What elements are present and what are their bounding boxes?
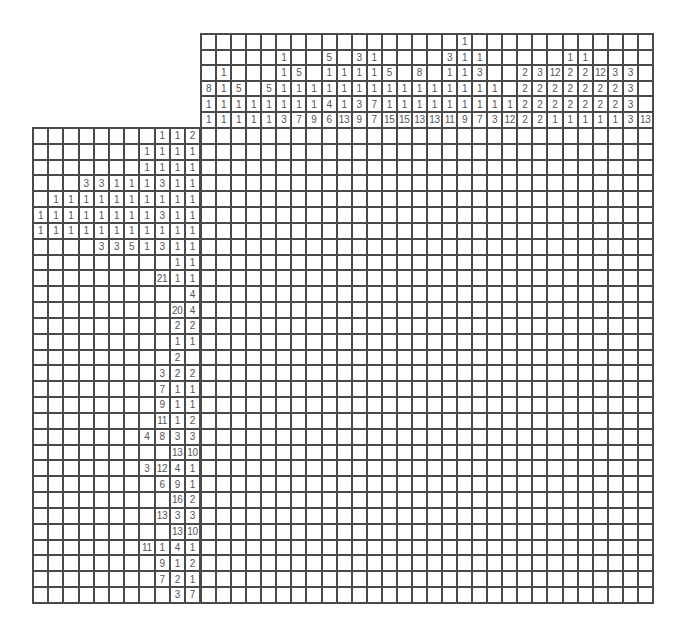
grid-cell[interactable] [638,191,653,207]
grid-cell[interactable] [532,191,547,207]
grid-cell[interactable] [367,492,382,508]
grid-cell[interactable] [427,460,442,476]
grid-cell[interactable] [397,255,412,271]
grid-cell[interactable] [472,175,487,191]
grid-cell[interactable] [517,175,532,191]
grid-cell[interactable] [276,175,291,191]
grid-cell[interactable] [291,555,306,571]
grid-cell[interactable] [532,318,547,334]
grid-cell[interactable] [578,223,593,239]
grid-cell[interactable] [337,144,352,160]
grid-cell[interactable] [261,540,276,556]
grid-cell[interactable] [563,460,578,476]
grid-cell[interactable] [306,524,321,540]
grid-cell[interactable] [337,334,352,350]
grid-cell[interactable] [593,318,608,334]
grid-cell[interactable] [563,555,578,571]
grid-cell[interactable] [442,397,457,413]
grid-cell[interactable] [397,381,412,397]
grid-cell[interactable] [472,207,487,223]
grid-cell[interactable] [427,191,442,207]
grid-cell[interactable] [382,381,397,397]
grid-cell[interactable] [547,381,562,397]
grid-cell[interactable] [608,381,623,397]
grid-cell[interactable] [337,302,352,318]
grid-cell[interactable] [352,492,367,508]
grid-cell[interactable] [306,460,321,476]
grid-cell[interactable] [638,492,653,508]
grid-cell[interactable] [547,318,562,334]
grid-cell[interactable] [532,365,547,381]
grid-cell[interactable] [352,571,367,587]
grid-cell[interactable] [382,223,397,239]
grid-cell[interactable] [517,571,532,587]
grid-cell[interactable] [352,460,367,476]
grid-cell[interactable] [352,524,367,540]
grid-cell[interactable] [593,144,608,160]
grid-cell[interactable] [216,492,231,508]
grid-cell[interactable] [472,302,487,318]
grid-cell[interactable] [261,207,276,223]
grid-cell[interactable] [322,365,337,381]
grid-cell[interactable] [502,571,517,587]
grid-cell[interactable] [276,144,291,160]
grid-cell[interactable] [246,144,261,160]
grid-cell[interactable] [608,207,623,223]
grid-cell[interactable] [231,255,246,271]
grid-cell[interactable] [261,587,276,603]
grid-cell[interactable] [201,555,216,571]
grid-cell[interactable] [547,191,562,207]
grid-cell[interactable] [352,413,367,429]
grid-cell[interactable] [472,555,487,571]
grid-cell[interactable] [231,460,246,476]
grid-cell[interactable] [306,587,321,603]
grid-cell[interactable] [502,381,517,397]
grid-cell[interactable] [457,571,472,587]
grid-cell[interactable] [442,160,457,176]
grid-cell[interactable] [517,270,532,286]
grid-cell[interactable] [306,381,321,397]
grid-cell[interactable] [623,160,638,176]
grid-cell[interactable] [216,365,231,381]
grid-cell[interactable] [276,223,291,239]
grid-cell[interactable] [593,381,608,397]
grid-cell[interactable] [367,508,382,524]
grid-cell[interactable] [291,223,306,239]
grid-cell[interactable] [261,175,276,191]
grid-cell[interactable] [457,413,472,429]
grid-cell[interactable] [246,413,261,429]
grid-cell[interactable] [578,128,593,144]
grid-cell[interactable] [201,160,216,176]
grid-cell[interactable] [231,365,246,381]
grid-cell[interactable] [322,270,337,286]
grid-cell[interactable] [412,460,427,476]
grid-cell[interactable] [231,587,246,603]
grid-cell[interactable] [517,350,532,366]
grid-cell[interactable] [532,239,547,255]
grid-cell[interactable] [337,555,352,571]
grid-cell[interactable] [306,476,321,492]
grid-cell[interactable] [306,270,321,286]
grid-cell[interactable] [532,476,547,492]
grid-cell[interactable] [337,223,352,239]
grid-cell[interactable] [397,318,412,334]
grid-cell[interactable] [261,397,276,413]
grid-cell[interactable] [352,334,367,350]
grid-cell[interactable] [472,476,487,492]
grid-cell[interactable] [276,302,291,318]
grid-cell[interactable] [306,429,321,445]
grid-cell[interactable] [201,460,216,476]
grid-cell[interactable] [487,508,502,524]
grid-cell[interactable] [638,476,653,492]
grid-cell[interactable] [382,144,397,160]
grid-cell[interactable] [638,255,653,271]
grid-cell[interactable] [472,255,487,271]
grid-cell[interactable] [563,524,578,540]
grid-cell[interactable] [382,397,397,413]
grid-cell[interactable] [201,302,216,318]
grid-cell[interactable] [593,555,608,571]
grid-cell[interactable] [412,508,427,524]
grid-cell[interactable] [382,555,397,571]
grid-cell[interactable] [367,255,382,271]
grid-cell[interactable] [457,160,472,176]
